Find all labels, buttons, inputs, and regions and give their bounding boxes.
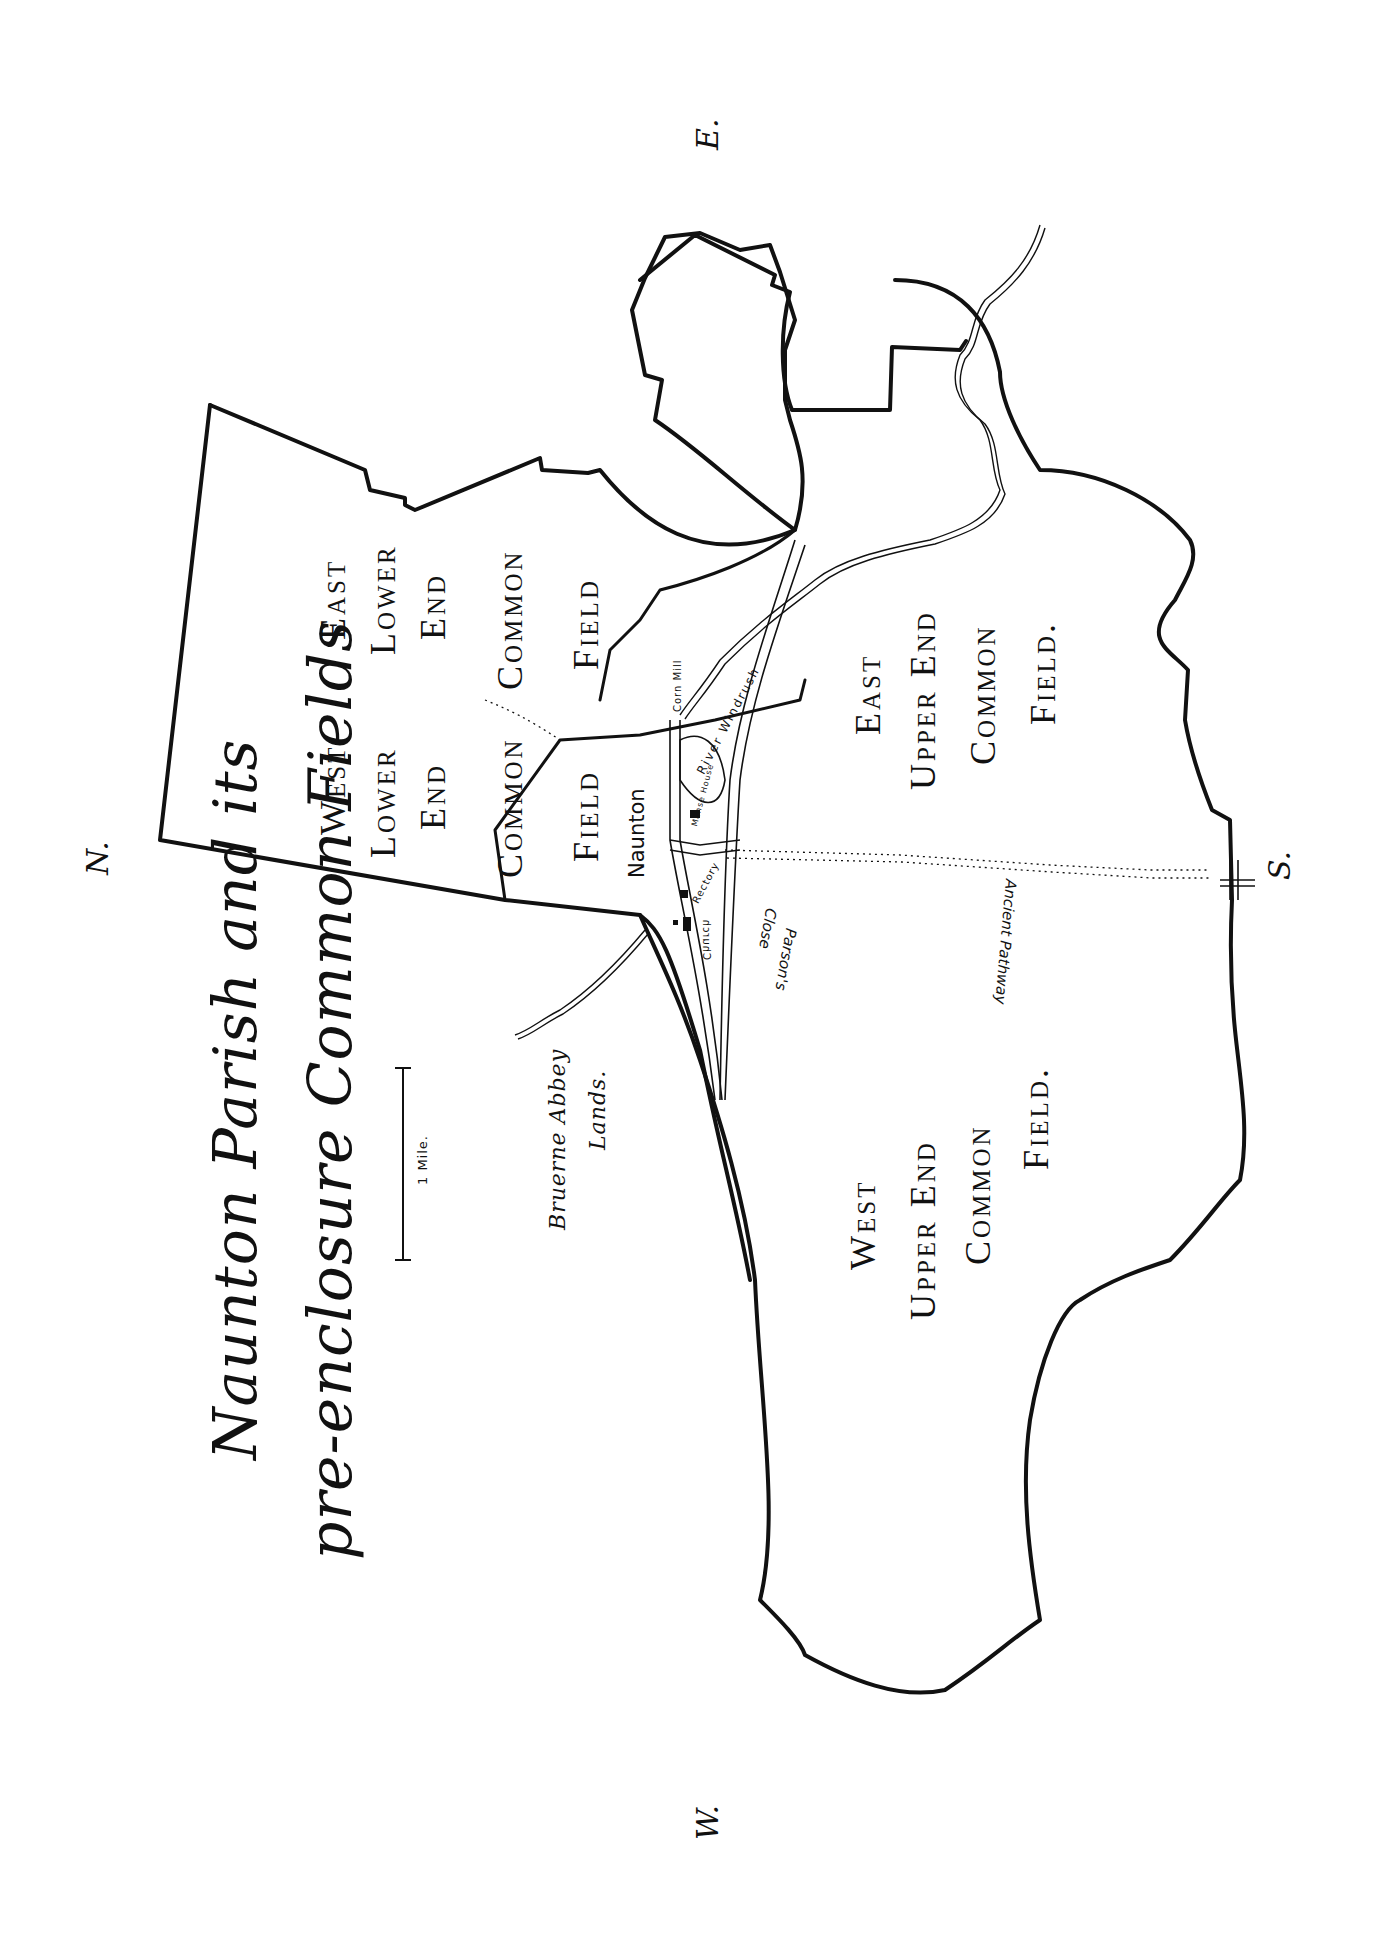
bruerne-abbey-label-1: Bruerne Abbey xyxy=(545,1049,570,1230)
bruerne-abbey-label-2: Lands. xyxy=(585,1070,610,1150)
mill-label: Corn Mill xyxy=(672,659,683,712)
field-west-upper-word-2: Upper End xyxy=(905,1140,941,1320)
field-east-lower-word-4: Common xyxy=(492,549,528,690)
field-west-lower-word-1: West xyxy=(315,745,351,835)
field-east-lower-word-2: Lower xyxy=(365,544,401,655)
field-west-lower-word-2: Lower xyxy=(365,747,401,858)
field-east-upper-word-2: Upper End xyxy=(905,610,941,790)
map-title-line-1: Naunton Parish and its xyxy=(205,739,265,1460)
scale-bar xyxy=(395,1068,411,1260)
compass-south: S. xyxy=(1262,851,1297,880)
compass-east: E. xyxy=(690,119,725,150)
field-east-lower-word-1: East xyxy=(315,559,351,640)
compass-west: W. xyxy=(690,1805,725,1840)
field-east-lower-word-3: End xyxy=(415,573,451,640)
field-west-lower-word-5: Field xyxy=(568,770,604,862)
map-page: Naunton Parish and its pre-enclosure Com… xyxy=(0,0,1399,1937)
field-east-lower-word-5: Field xyxy=(568,578,604,670)
scale-bar-label: 1 Mile. xyxy=(415,1135,430,1185)
south-marker-cross xyxy=(1220,860,1255,900)
field-west-upper-word-4: Field. xyxy=(1018,1066,1054,1170)
church-label: Church xyxy=(701,919,712,960)
field-east-upper-word-1: East xyxy=(850,654,886,735)
village-label-naunton: Naunton xyxy=(625,788,649,878)
field-west-upper-word-3: Common xyxy=(960,1124,996,1265)
field-east-upper-word-4: Field. xyxy=(1025,621,1061,725)
rectory-icon xyxy=(680,890,688,898)
field-east-upper-word-3: Common xyxy=(965,624,1001,765)
church-icon xyxy=(683,917,691,931)
compass-north: N. xyxy=(80,841,115,875)
field-west-lower-word-4: Common xyxy=(492,737,528,878)
field-west-lower-word-3: End xyxy=(415,763,451,830)
field-west-upper-word-1: West xyxy=(845,1180,881,1270)
